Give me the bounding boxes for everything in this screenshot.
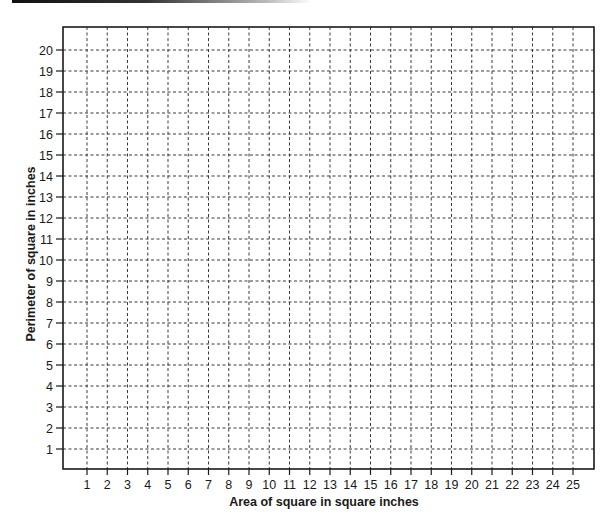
x-tick-label: 8	[225, 478, 232, 492]
x-tick-label: 12	[303, 478, 317, 492]
y-tick-label: 12	[39, 212, 53, 226]
y-tick-label: 3	[46, 401, 53, 415]
plot-frame	[63, 27, 594, 469]
x-axis-ticks: 1234567891011121314151617181920212223242…	[84, 469, 580, 492]
x-tick-label: 25	[566, 478, 580, 492]
y-tick-label: 20	[39, 44, 53, 58]
y-tick-label: 2	[46, 422, 53, 436]
x-tick-label: 24	[546, 478, 560, 492]
x-tick-label: 13	[323, 478, 337, 492]
x-tick-label: 10	[262, 478, 276, 492]
y-tick-label: 9	[46, 275, 53, 289]
y-tick-label: 5	[46, 359, 53, 373]
x-tick-label: 3	[124, 478, 131, 492]
y-tick-label: 4	[46, 380, 53, 394]
x-tick-label: 14	[343, 478, 357, 492]
x-tick-label: 17	[404, 478, 418, 492]
y-tick-label: 7	[46, 317, 53, 331]
x-tick-label: 15	[364, 478, 378, 492]
x-tick-label: 16	[384, 478, 398, 492]
y-tick-label: 13	[39, 191, 53, 205]
y-tick-label: 14	[39, 170, 53, 184]
y-tick-label: 6	[46, 338, 53, 352]
x-tick-label: 20	[465, 478, 479, 492]
x-tick-label: 7	[205, 478, 212, 492]
x-tick-label: 9	[246, 478, 253, 492]
x-tick-label: 19	[445, 478, 459, 492]
x-tick-label: 6	[185, 478, 192, 492]
y-tick-label: 19	[39, 65, 53, 79]
y-tick-label: 11	[40, 233, 53, 247]
chart: 1234567891011121314151617181920212223242…	[0, 0, 614, 531]
y-tick-label: 17	[39, 107, 53, 121]
y-tick-label: 15	[39, 149, 53, 163]
x-tick-label: 21	[485, 478, 499, 492]
y-tick-label: 1	[46, 443, 53, 457]
x-tick-label: 22	[505, 478, 519, 492]
x-tick-label: 2	[104, 478, 111, 492]
x-tick-label: 4	[144, 478, 151, 492]
y-tick-label: 18	[39, 86, 53, 100]
y-axis-title: Perimeter of square in inches	[24, 166, 38, 341]
x-tick-label: 11	[283, 478, 296, 492]
y-tick-label: 16	[39, 128, 53, 142]
x-tick-label: 23	[526, 478, 540, 492]
x-tick-label: 1	[84, 478, 91, 492]
x-axis-title: Area of square in square inches	[229, 495, 419, 509]
y-axis-ticks: 1234567891011121314151617181920	[39, 44, 63, 457]
y-tick-label: 8	[46, 296, 53, 310]
x-tick-label: 5	[165, 478, 172, 492]
grid-lines	[63, 27, 594, 469]
x-tick-label: 18	[424, 478, 438, 492]
y-tick-label: 10	[39, 254, 53, 268]
